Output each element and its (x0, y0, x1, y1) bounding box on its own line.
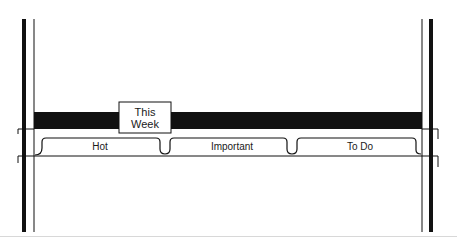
this-week-line2: Week (131, 118, 159, 130)
right-thick-rail (429, 19, 433, 232)
left-thick-rail (22, 19, 26, 232)
black-band (34, 112, 422, 129)
tab-to-do: To Do (347, 141, 374, 152)
page-bottom-rule (0, 236, 457, 237)
this-week-line1: This (135, 106, 156, 118)
tab-hot: Hot (92, 141, 108, 152)
tab-important: Important (211, 141, 253, 152)
folder-tabs-diagram: Hot Important To Do This Week (0, 0, 457, 248)
